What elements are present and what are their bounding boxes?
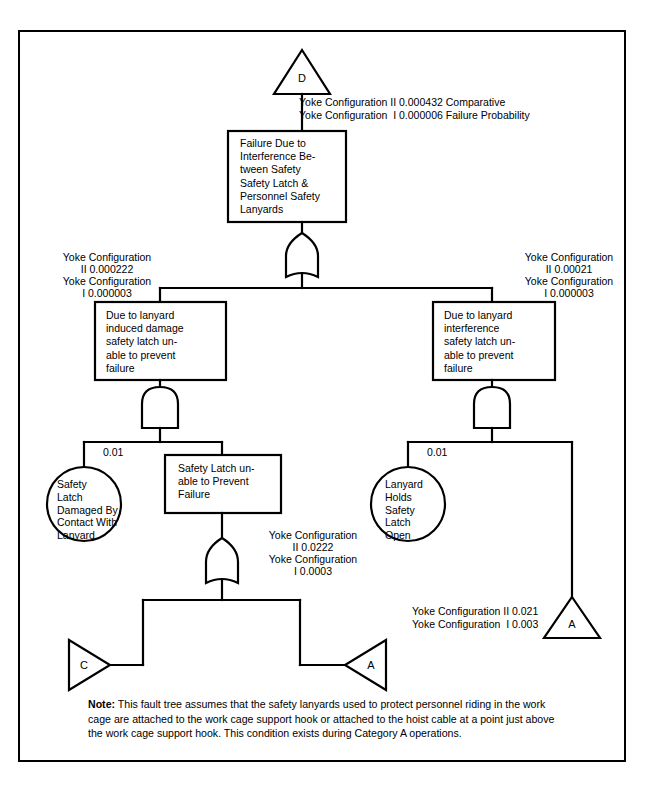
right-branch-probability-line-1: Yoke Configuration xyxy=(495,251,643,264)
top-probability-line-1: Yoke Configuration II 0.000432 Comparati… xyxy=(299,96,505,109)
transfer-triangle-c-label: C xyxy=(70,659,98,671)
basic-event-circle-left-text: Safety Latch Damaged By Contact With Lan… xyxy=(57,478,127,542)
right-transfer-probability-line-1: Yoke Configuration II 0.021 xyxy=(412,605,538,618)
fault-tree-page: D Yoke Configuration II 0.000432 Compara… xyxy=(0,0,645,789)
subbox-probability-line-2: II 0.0222 xyxy=(238,541,388,554)
left-branch-probability-line-2: II 0.000222 xyxy=(32,263,182,276)
note-block: Note: This fault tree assumes that the s… xyxy=(88,697,558,741)
left-branch-probability-line-3: Yoke Configuration xyxy=(32,275,182,288)
right-branch-box-text: Due to lanyard interference safety latch… xyxy=(444,309,556,375)
right-branch-probability-line-3: Yoke Configuration xyxy=(495,275,643,288)
transfer-triangle-d-label: D xyxy=(274,72,330,84)
subbox-probability-line-3: Yoke Configuration xyxy=(238,553,388,566)
left-branch-probability-line-1: Yoke Configuration xyxy=(32,251,182,264)
transfer-triangle-a-left-label: A xyxy=(358,659,384,671)
transfer-triangle-a-right-label: A xyxy=(544,618,600,630)
subbox-probability-line-1: Yoke Configuration xyxy=(238,529,388,542)
right-branch-probability-line-4: I 0.000003 xyxy=(495,287,643,300)
note-text: This fault tree assumes that the safety … xyxy=(88,698,554,739)
top-probability-line-2: Yoke Configuration I 0.000006 Failure Pr… xyxy=(299,109,530,122)
basic-event-circle-right-text: Lanyard Holds Safety Latch Open xyxy=(385,478,455,542)
left-branch-box-text: Due to lanyard induced damage safety lat… xyxy=(106,309,224,375)
right-branch-probability-line-2: II 0.00021 xyxy=(495,263,643,276)
top-event-box-text: Failure Due to Interference Be- tween Sa… xyxy=(240,137,344,216)
subbox-probability-line-4: I 0.0003 xyxy=(238,565,388,578)
note-label: Note: xyxy=(88,698,115,710)
right-transfer-probability-line-2: Yoke Configuration I 0.003 xyxy=(412,618,538,631)
right-basic-event-probability: 0.01 xyxy=(427,446,447,458)
safety-latch-subbox-text: Safety Latch un- able to Prevent Failure xyxy=(178,462,278,502)
left-basic-event-probability: 0.01 xyxy=(103,446,123,458)
left-branch-probability-line-4: I 0.000003 xyxy=(32,287,182,300)
